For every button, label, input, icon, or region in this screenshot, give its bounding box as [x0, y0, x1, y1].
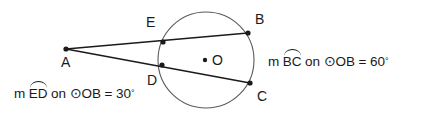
arc-bc-equals: = [359, 54, 367, 69]
arc-bc-measure-prefix: m [268, 54, 279, 69]
secant-line-ab [66, 33, 248, 49]
arc-bc-connector: on [305, 54, 320, 69]
arc-ed-circle-name: OB [82, 86, 102, 101]
point-label-b: B [255, 11, 264, 27]
point-b-dot [245, 30, 250, 35]
circle-symbol-icon: ⊙ [70, 87, 82, 101]
arc-ed-equals: = [105, 86, 113, 101]
point-label-e: E [146, 14, 155, 30]
arc-ed-name: ED [29, 86, 48, 101]
center-label-o: O [212, 52, 223, 68]
point-e-dot [160, 39, 165, 44]
arc-bc-measure-equation: mBCon⊙OB=60° [268, 54, 389, 69]
geometry-figure: A E B D C O mBCon⊙OB=60° mEDon⊙OB=30° [0, 0, 438, 115]
arc-ed-name-with-arc: ED [29, 86, 48, 101]
point-c-dot [247, 80, 252, 85]
arc-bc-name: BC [283, 54, 302, 69]
degree-symbol-icon: ° [131, 88, 135, 98]
degree-symbol-icon: ° [385, 56, 389, 66]
point-label-c: C [257, 88, 267, 104]
center-o-dot [203, 58, 207, 62]
arc-cap-icon [284, 49, 301, 56]
point-d-dot [159, 62, 164, 67]
arc-bc-circle-name: OB [336, 54, 356, 69]
arc-ed-measure-prefix: m [14, 86, 25, 101]
arc-ed-value: 30 [116, 86, 131, 101]
arc-ed-connector: on [51, 86, 66, 101]
arc-cap-icon [30, 81, 47, 88]
circle-symbol-icon: ⊙ [324, 55, 336, 69]
point-label-a: A [61, 54, 71, 70]
point-label-d: D [147, 72, 157, 88]
point-a-dot [63, 46, 68, 51]
arc-bc-value: 60 [370, 54, 385, 69]
arc-bc-name-with-arc: BC [283, 54, 302, 69]
arc-ed-measure-equation: mEDon⊙OB=30° [14, 86, 135, 101]
